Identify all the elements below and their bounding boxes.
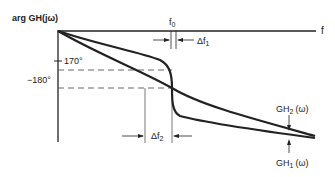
df2-label: Δf2 <box>151 131 164 142</box>
tick-180-label: −180° <box>27 75 51 85</box>
gh1-arrow-icon <box>287 139 291 145</box>
gh1-label: GH1(ω) <box>276 158 308 169</box>
x-axis-label: f <box>321 25 324 36</box>
df1-arrow-right-icon <box>164 38 170 42</box>
tick-170-label: 170° <box>64 56 83 66</box>
df1-arrow-left-icon <box>177 38 183 42</box>
f0-label: f0 <box>169 17 176 28</box>
df2-arrow-right-icon <box>138 134 144 138</box>
curve-gh2 <box>58 31 315 136</box>
df1-label: Δf1 <box>197 36 210 47</box>
curve-gh1 <box>58 31 315 138</box>
gh2-label: GH2(ω) <box>276 104 308 115</box>
df2-arrow-left-icon <box>173 134 179 138</box>
y-axis-label: arg GH(jω) <box>12 13 58 23</box>
phase-diagram: arg GH(jω) f 170° −180° f0 Δf1 Δf2 GH2(ω… <box>0 0 335 177</box>
